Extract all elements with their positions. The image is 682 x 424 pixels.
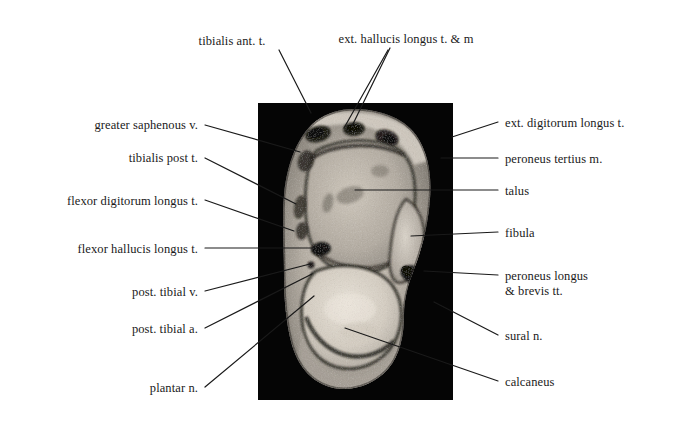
label-greater-saphenous-v: greater saphenous v. [94, 118, 198, 133]
label-post-tibial-a: post. tibial a. [132, 322, 198, 337]
label-calcaneus: calcaneus [505, 375, 554, 390]
label-peroneus-tertius-m: peroneus tertius m. [505, 152, 602, 167]
ext-hallucis-longus-core [347, 124, 360, 132]
label-fibula: fibula [505, 226, 535, 241]
label-flexor-hallucis-longus-t: flexor hallucis longus t. [77, 242, 198, 257]
label-sural-n: sural n. [505, 329, 543, 344]
label-peroneus-longus-line1: peroneus longus [505, 269, 588, 283]
calcaneus-marrow-texture [340, 322, 376, 340]
talus-marrow-marking-c [371, 165, 389, 177]
label-ext-hallucis-longus-t-m: ext. hallucis longus t. & m [339, 32, 474, 47]
label-post-tibial-v: post. tibial v. [132, 285, 198, 300]
label-flexor-digitorum-longus-t: flexor digitorum longus t. [67, 194, 198, 209]
mri-cross-section-image [258, 103, 453, 400]
label-talus: talus [505, 184, 529, 199]
label-tibialis-post-t: tibialis post t. [129, 151, 198, 166]
leader-line-ext-digitorum-longus-t [452, 122, 498, 137]
label-plantar-n: plantar n. [150, 381, 198, 396]
label-tibialis-ant-t: tibialis ant. t. [199, 34, 266, 49]
label-ext-digitorum-longus-t: ext. digitorum longus t. [505, 116, 624, 131]
annotated-mri-figure: tibialis ant. t. ext. hallucis longus t.… [0, 0, 682, 424]
post-tibial-vein-structure [308, 262, 315, 269]
label-peroneus-longus-brevis-tt: peroneus longus & brevis tt. [505, 269, 588, 299]
mri-image-panel [258, 103, 453, 400]
label-peroneus-brevis-line2: & brevis tt. [505, 284, 563, 298]
calcaneus-marrow-bright [324, 293, 376, 325]
